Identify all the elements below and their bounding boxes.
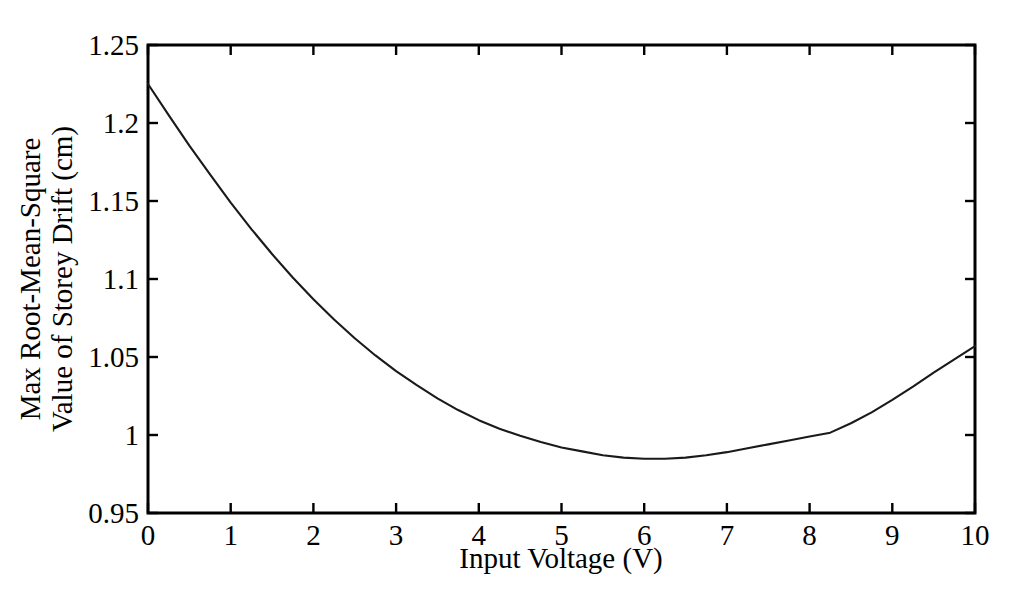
x-axis-ticks [148, 45, 975, 513]
x-tick-label-0: 0 [141, 519, 156, 551]
x-tick-label-8: 8 [802, 519, 817, 551]
figure-chart: 012345678910 0.9511.051.11.151.21.25 Inp… [0, 0, 1025, 599]
y-tick-label-4: 1.15 [88, 185, 139, 217]
y-axis-title: Max Root-Mean-Square Value of Storey Dri… [14, 126, 79, 432]
x-tick-label-2: 2 [306, 519, 321, 551]
x-tick-label-10: 10 [961, 519, 990, 551]
plot-frame [148, 45, 975, 513]
y-axis-tick-labels: 0.9511.051.11.151.21.25 [88, 29, 139, 529]
x-axis-title: Input Voltage (V) [459, 542, 663, 575]
y-tick-label-3: 1.1 [103, 263, 139, 295]
data-series-group [148, 84, 975, 459]
chart-canvas: 012345678910 0.9511.051.11.151.21.25 Inp… [0, 0, 1025, 599]
y-axis-title-line-2: Value of Storey Drift (cm) [46, 126, 79, 432]
x-tick-label-1: 1 [223, 519, 238, 551]
x-tick-label-7: 7 [720, 519, 735, 551]
y-tick-label-0: 0.95 [88, 497, 139, 529]
y-tick-label-5: 1.2 [103, 107, 139, 139]
y-axis-ticks [148, 45, 975, 513]
y-axis-title-line-1: Max Root-Mean-Square [14, 138, 46, 421]
y-tick-label-2: 1.05 [88, 341, 139, 373]
y-tick-label-1: 1 [125, 419, 140, 451]
data-line-0 [148, 84, 975, 459]
y-tick-label-6: 1.25 [88, 29, 139, 61]
axes-box [148, 45, 975, 513]
x-tick-label-3: 3 [389, 519, 404, 551]
x-tick-label-9: 9 [885, 519, 900, 551]
